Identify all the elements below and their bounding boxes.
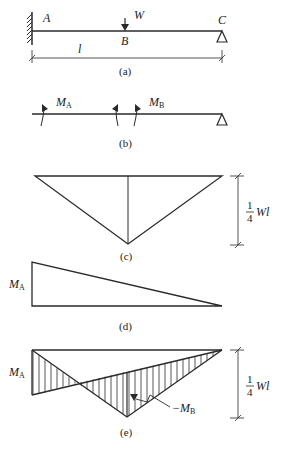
caption-e: (e)	[120, 426, 133, 439]
panel-e: MA 1 4 Wl −MB (e)	[8, 347, 270, 439]
fixed-support-icon	[27, 12, 32, 45]
moment-A-arrow-icon	[41, 104, 48, 126]
height-dimension-line	[230, 347, 244, 421]
panel-c: 1 4 Wl (c)	[35, 173, 270, 263]
label-quarter-Wl: 1 4 Wl	[246, 199, 270, 224]
panel-a: A W B C l (a)	[27, 8, 227, 78]
support-moment-triangle	[32, 262, 222, 306]
panel-d: MA (d)	[8, 262, 222, 333]
roller-support-icon	[217, 114, 227, 125]
label-A: A	[42, 11, 51, 25]
roller-support-icon	[217, 31, 227, 42]
moment-B-right-arrow-icon	[134, 104, 141, 126]
height-dimension-line	[230, 173, 244, 248]
label-quarter-Wl: 1 4 Wl	[246, 373, 270, 398]
svg-text:Wl: Wl	[256, 379, 270, 393]
svg-text:4: 4	[247, 212, 253, 224]
moment-B-left-arrow-icon	[112, 104, 118, 126]
label-MA: MA	[8, 365, 25, 380]
label-W: W	[134, 8, 145, 22]
hatched-right-region	[77, 350, 222, 417]
label-span-l: l	[78, 42, 82, 56]
svg-text:Wl: Wl	[256, 205, 270, 219]
svg-text:1: 1	[247, 373, 253, 385]
point-load-arrow-icon	[121, 18, 129, 31]
svg-text:1: 1	[247, 199, 253, 211]
svg-text:4: 4	[247, 386, 253, 398]
label-neg-MB: −MB	[172, 401, 195, 416]
caption-a: (a)	[119, 65, 132, 78]
label-MA: MA	[55, 95, 72, 110]
caption-d: (d)	[119, 320, 132, 333]
label-C: C	[218, 13, 227, 27]
label-MA: MA	[8, 277, 25, 292]
beam-diagram-figure: A W B C l (a) MA MB (b)	[0, 0, 284, 449]
label-B: B	[121, 34, 129, 48]
hatched-left-region	[32, 350, 77, 395]
panel-b: MA MB (b)	[32, 95, 227, 150]
caption-b: (b)	[119, 137, 132, 150]
span-dimension-line	[29, 50, 225, 63]
caption-c: (c)	[120, 250, 133, 263]
label-MB: MB	[148, 95, 164, 110]
